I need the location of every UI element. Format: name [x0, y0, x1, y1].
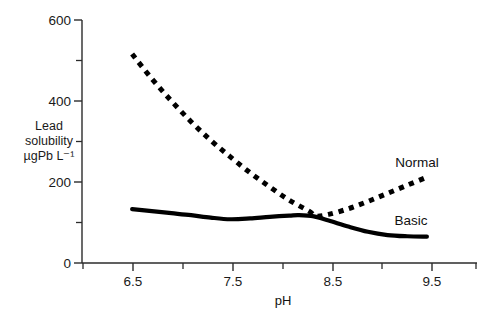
y-tick-label-0: 0 — [63, 256, 71, 271]
y-tick-label-200: 200 — [48, 175, 71, 190]
y-tick-label-600: 600 — [48, 13, 71, 28]
chart-svg: 0 200 400 600 Lead solubility µgPb L⁻¹ — [0, 0, 489, 313]
y-axis-title-line-1: Lead — [35, 119, 63, 133]
y-axis-title-line-3: µgPb L⁻¹ — [23, 149, 74, 163]
series-label-normal: Normal — [395, 155, 439, 170]
y-tick-label-400: 400 — [48, 94, 71, 109]
x-tick-label-9-5: 9.5 — [423, 274, 442, 289]
x-tick-label-6-5: 6.5 — [124, 274, 143, 289]
series-label-basic: Basic — [394, 213, 427, 228]
x-tick-label-7-5: 7.5 — [224, 274, 243, 289]
x-tick-label-8-5: 8.5 — [324, 274, 343, 289]
lead-solubility-chart: 0 200 400 600 Lead solubility µgPb L⁻¹ — [0, 0, 489, 313]
x-axis-title: pH — [275, 293, 292, 308]
y-axis-title-line-2: solubility — [25, 134, 74, 148]
